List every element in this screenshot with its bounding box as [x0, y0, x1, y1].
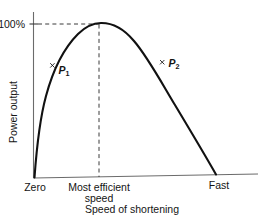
x-axis-category-fast: Fast — [209, 179, 230, 191]
x-axis-title: Speed of shortening — [85, 203, 179, 215]
power-output-chart: P 1 P 2 100% Power output Zero Most effi… — [0, 0, 268, 216]
power-output-curve — [35, 23, 217, 178]
x-axis-line — [34, 174, 259, 178]
annotation-p1-subscript: 1 — [66, 69, 70, 78]
marker-p2-x — [160, 60, 164, 64]
y-axis-title: Power output — [7, 81, 19, 143]
x-axis-category-zero: Zero — [24, 181, 46, 193]
marker-p1-x — [50, 63, 54, 67]
y-axis-value-100: 100% — [0, 18, 25, 30]
annotation-p2-subscript: 2 — [176, 62, 180, 71]
